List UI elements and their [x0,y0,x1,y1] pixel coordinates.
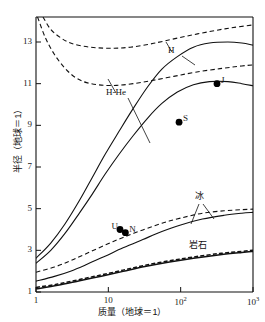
x-tick-marks [36,287,253,292]
planet-marker-N [122,229,129,236]
y-tick-label: 13 [16,37,32,46]
curve-H-He-solid [36,81,253,263]
planet-markers [117,80,221,236]
x-axis-title: 质量（地球＝1） [0,305,265,318]
x-tick-label: 10 [96,296,120,305]
curve-rock-solid [36,251,253,289]
leader-hhe-solid [128,98,150,143]
label-h: H [168,46,175,55]
y-tick-label: 3 [16,245,32,254]
y-tick-label: 11 [16,79,32,88]
label-rock: 岩石 [189,241,207,250]
x-tick-label: 1 [24,296,48,305]
y-tick-label: 9 [16,120,32,129]
planet-marker-S [176,119,183,126]
leader-ice-dashed [203,204,214,219]
chart-figure: 半径（地球＝1） 质量（地球＝1） H H-He 冰 岩石 135791113 … [0,0,265,322]
leader-h-solid [182,56,195,65]
y-axis-title: 半径（地球＝1） [11,91,24,187]
data-curves [36,17,253,289]
y-tick-label: 7 [16,162,32,171]
label-ice: 冰 [195,192,204,201]
axes [36,17,253,292]
y-tick-label: 5 [16,204,32,213]
curve-rock-dashed [36,250,253,287]
curve-ice-solid [36,212,253,281]
label-h-he: H-He [106,88,126,97]
planet-label-J: J [221,76,233,85]
x-tick-label: 103 [241,296,265,307]
planet-marker-J [214,80,221,87]
planet-label-S: S [183,114,195,123]
x-tick-label: 102 [169,296,193,307]
y-tick-label: 1 [16,287,32,296]
planet-label-U: U [108,222,118,231]
chart-plot-area [0,0,265,322]
curve-H-dashed [43,17,253,48]
planet-label-N: N [129,225,141,234]
